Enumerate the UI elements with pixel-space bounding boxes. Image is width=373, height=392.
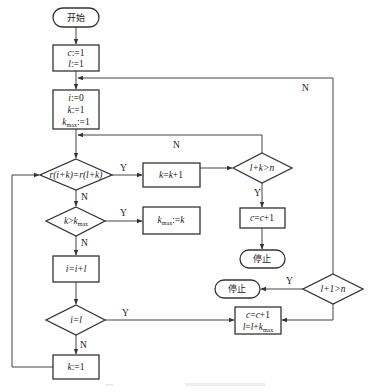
- reset-k-label: k:=1: [68, 362, 85, 372]
- update-process: c=c+1 l=l+kmax: [235, 307, 281, 334]
- inc-c-process: c=c+1: [240, 208, 285, 228]
- set-kmax-label: kmax:=k: [158, 215, 186, 226]
- label-il-yes: Y: [122, 308, 129, 318]
- stop2-label: 停止: [228, 283, 246, 294]
- flowchart: 开始 c:=1 l:=1 i:=0 k:=1 kmax:=1 r(i+k)=r(…: [0, 0, 373, 392]
- check-kmax-decision: k>kmax: [46, 207, 105, 236]
- inc-i-label: i=i+l: [66, 264, 87, 274]
- edge-l1-no-loop: [78, 78, 333, 274]
- label-kmax-no: N: [81, 238, 88, 248]
- init1-process: c:=1 l:=1: [53, 45, 99, 71]
- label-cmp-yes: Y: [120, 163, 127, 173]
- compare-label: r(i+k)=r(l+k): [50, 170, 103, 181]
- check-il-label: i=l: [70, 315, 82, 325]
- label-lk-no: N: [173, 140, 180, 150]
- init1-line-l: l:=1: [68, 59, 84, 69]
- label-l1-yes: Y: [286, 276, 293, 286]
- caption-fragment: [185, 383, 265, 386]
- init2-line-k: k:=1: [68, 105, 85, 115]
- stop2-terminal: 停止: [215, 280, 260, 298]
- check-lk-decision: l+k>n: [233, 153, 292, 183]
- check-l1-decision: l+1>n: [303, 274, 363, 304]
- label-kmax-yes: Y: [120, 208, 127, 218]
- start-label: 开始: [67, 12, 85, 23]
- inc-c-label: c=c+1: [250, 213, 274, 223]
- set-kmax-process: kmax:=k: [143, 207, 200, 234]
- reset-k-process: k:=1: [53, 355, 99, 379]
- label-lk-yes: Y: [254, 188, 261, 198]
- label-il-no: N: [80, 340, 87, 350]
- stop1-label: 停止: [253, 253, 271, 264]
- edge-lk-no-loop: [78, 135, 262, 153]
- check-il-decision: i=l: [46, 305, 105, 335]
- check-lk-label: l+k>n: [250, 163, 275, 173]
- label-l1-no: N: [302, 83, 309, 93]
- start-terminal: 开始: [53, 8, 99, 27]
- inc-i-process: i=i+l: [53, 256, 99, 282]
- compare-decision: r(i+k)=r(l+k): [40, 159, 112, 190]
- edge-resetk-loop: [12, 175, 53, 367]
- check-l1-label: l+1>n: [321, 284, 346, 294]
- inc-k-process: k=k+1: [143, 163, 200, 187]
- stop1-terminal: 停止: [240, 250, 285, 268]
- label-cmp-no: N: [81, 192, 88, 202]
- update-line-c: c=c+1: [246, 310, 270, 320]
- init2-line-i: i:=0: [68, 93, 84, 103]
- init2-process: i:=0 k:=1 kmax:=1: [53, 90, 99, 129]
- caption-fragment: [105, 384, 113, 386]
- edge-l1-update: [282, 304, 333, 320]
- init2-line-kmax: kmax:=1: [62, 117, 90, 128]
- inc-k-label: k=k+1: [159, 170, 183, 180]
- init1-line-c: c:=1: [68, 48, 85, 58]
